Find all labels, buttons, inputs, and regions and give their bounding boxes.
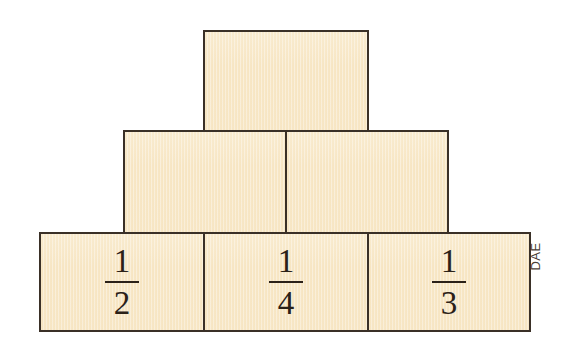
pyramid-block-middle-2 bbox=[285, 130, 449, 234]
fraction-bar bbox=[269, 281, 303, 283]
credit-label: DAE bbox=[524, 228, 546, 284]
fraction-one-third: 1 3 bbox=[432, 245, 466, 320]
fraction-bar bbox=[105, 281, 139, 283]
fraction-numerator: 1 bbox=[274, 245, 299, 280]
fraction-bar bbox=[432, 281, 466, 283]
fraction-one-half: 1 2 bbox=[105, 245, 139, 320]
fraction-numerator: 1 bbox=[437, 245, 462, 280]
fraction-denominator: 2 bbox=[110, 285, 135, 320]
fraction-one-quarter: 1 4 bbox=[269, 245, 303, 320]
fraction-denominator: 3 bbox=[437, 285, 462, 320]
pyramid-block-bottom-1: 1 2 bbox=[39, 232, 205, 332]
pyramid-block-middle-1 bbox=[123, 130, 287, 234]
pyramid-block-top-1 bbox=[203, 30, 369, 132]
fraction-numerator: 1 bbox=[110, 245, 135, 280]
fraction-denominator: 4 bbox=[274, 285, 299, 320]
credit-label-text: DAE bbox=[528, 242, 543, 270]
fraction-pyramid-figure: 1 2 1 4 1 3 DAE bbox=[0, 0, 569, 337]
pyramid-block-bottom-2: 1 4 bbox=[203, 232, 369, 332]
pyramid-block-bottom-3: 1 3 bbox=[367, 232, 531, 332]
